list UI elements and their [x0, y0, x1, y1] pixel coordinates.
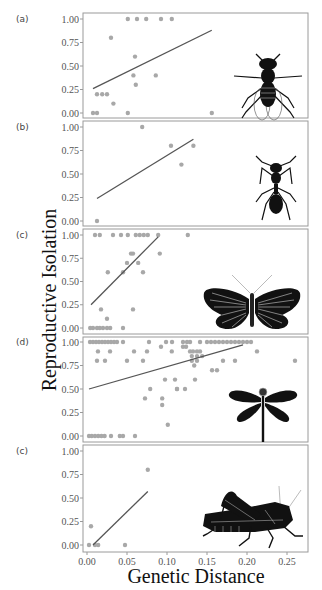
data-point — [186, 233, 190, 237]
y-tick-label: 0.75 — [62, 145, 80, 156]
data-point — [159, 17, 163, 21]
data-point — [126, 233, 130, 237]
panel-label: (c) — [16, 230, 28, 240]
data-point — [100, 92, 104, 96]
data-point — [141, 270, 145, 274]
data-point — [121, 326, 125, 330]
data-point — [108, 326, 112, 330]
data-point — [190, 354, 194, 358]
x-tick-label: 0.00 — [78, 556, 96, 567]
y-tick-label: 1.00 — [62, 230, 80, 241]
data-point — [181, 340, 185, 344]
data-point — [191, 349, 195, 353]
panel-label: (d) — [16, 337, 29, 347]
data-point — [133, 54, 137, 58]
data-point — [136, 261, 140, 265]
data-point — [233, 359, 237, 363]
y-tick-label: 0.00 — [62, 216, 80, 227]
data-point — [198, 349, 202, 353]
x-tick-label: 0.20 — [238, 556, 256, 567]
data-point — [160, 403, 164, 407]
data-point — [99, 307, 103, 311]
data-point — [158, 251, 162, 255]
data-point — [111, 101, 115, 105]
data-point — [160, 396, 164, 400]
data-point — [210, 368, 214, 372]
data-point — [131, 251, 135, 255]
data-point — [115, 340, 119, 344]
data-point — [106, 270, 110, 274]
y-tick-label: 0.00 — [62, 323, 80, 334]
data-point — [191, 144, 195, 148]
data-point — [209, 340, 213, 344]
data-point — [141, 359, 145, 363]
reproductive-isolation-chart: 0.000.250.500.751.00(a)0.000.250.500.751… — [0, 0, 322, 590]
x-tick-label: 0.15 — [198, 556, 216, 567]
data-point — [229, 340, 233, 344]
data-point — [138, 233, 142, 237]
data-point — [123, 543, 127, 547]
data-point — [205, 340, 209, 344]
y-tick-label: 1.00 — [62, 122, 80, 133]
data-point — [213, 340, 217, 344]
data-point — [143, 396, 147, 400]
data-point — [133, 434, 137, 438]
data-point — [193, 377, 197, 381]
data-point — [215, 368, 219, 372]
y-tick-label: 0.00 — [62, 108, 80, 119]
data-point — [102, 434, 106, 438]
data-point — [241, 340, 245, 344]
data-point — [111, 233, 115, 237]
data-point — [108, 349, 112, 353]
data-point — [154, 73, 158, 77]
y-tick-label: 0.50 — [62, 493, 80, 504]
data-point — [103, 359, 107, 363]
y-tick-label: 0.75 — [62, 37, 80, 48]
data-point — [91, 111, 95, 115]
data-point — [134, 83, 138, 87]
data-point — [170, 349, 174, 353]
data-point — [98, 233, 102, 237]
data-point — [135, 17, 139, 21]
data-point — [169, 144, 173, 148]
data-point — [132, 349, 136, 353]
data-point — [125, 359, 129, 363]
y-tick-label: 0.25 — [62, 84, 80, 95]
data-point — [166, 423, 170, 427]
y-tick-label: 0.50 — [62, 276, 80, 287]
data-point — [184, 345, 188, 349]
panel-label: (c) — [16, 446, 28, 456]
y-tick-label: 0.75 — [62, 469, 80, 480]
data-point — [148, 387, 152, 391]
data-point — [170, 17, 174, 21]
data-point — [89, 524, 93, 528]
data-point — [146, 468, 150, 472]
y-tick-label: 0.50 — [62, 169, 80, 180]
x-axis-title: Genetic Distance — [127, 565, 264, 587]
data-point — [105, 92, 109, 96]
plot-frame — [83, 445, 308, 552]
panel-label: (b) — [16, 122, 29, 132]
data-point — [221, 340, 225, 344]
data-point — [105, 317, 109, 321]
data-point — [146, 233, 150, 237]
y-axis-title: Reproductive Isolation — [38, 209, 61, 392]
panel-5: 0.000.250.500.751.00(c) — [16, 445, 308, 552]
y-tick-label: 0.00 — [62, 540, 80, 551]
data-point — [121, 434, 125, 438]
data-point — [142, 233, 146, 237]
data-point — [101, 326, 105, 330]
data-point — [96, 349, 100, 353]
y-tick-label: 0.25 — [62, 407, 80, 418]
data-point — [249, 340, 253, 344]
y-tick-label: 0.25 — [62, 516, 80, 527]
data-point — [170, 340, 174, 344]
y-tick-label: 1.00 — [62, 14, 80, 25]
data-point — [95, 111, 99, 115]
y-tick-label: 0.25 — [62, 192, 80, 203]
data-point — [221, 359, 225, 363]
panel-label: (a) — [16, 14, 29, 24]
x-tick-label: 0.25 — [278, 556, 296, 567]
data-point — [192, 363, 196, 367]
data-point — [233, 340, 237, 344]
